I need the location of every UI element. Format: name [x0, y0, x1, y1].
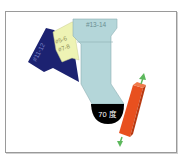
light-blue-piece: #13-14	[73, 19, 124, 104]
sock-angle-diagram: #11-12 #5-6 #7-8 #13-14 70 度	[0, 0, 185, 160]
angle-badge: 70 度	[91, 104, 124, 124]
light-blue-tag: #13-14	[86, 21, 107, 28]
angle-label: 70 度	[98, 109, 116, 119]
